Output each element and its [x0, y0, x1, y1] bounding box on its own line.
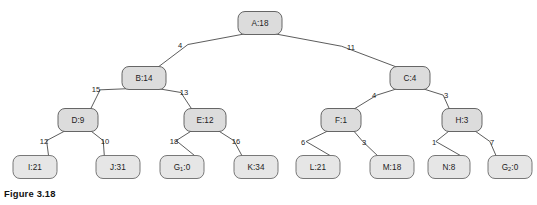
node-label: L:21	[310, 163, 327, 172]
tree-node-D[interactable]: D:9	[58, 109, 98, 132]
edge-weight-label: 3	[362, 138, 366, 147]
tree-node-K[interactable]: K:34	[234, 156, 278, 179]
tree-node-C[interactable]: C:4	[390, 67, 430, 90]
edge-weight-label: 6	[301, 138, 305, 147]
edge-weight-label: 12	[40, 137, 48, 146]
edge-weight-label: 4	[178, 41, 182, 50]
tree-node-E[interactable]: E:12	[184, 109, 226, 132]
tree-node-J[interactable]: J:31	[96, 156, 140, 179]
tree-node-I[interactable]: I:21	[13, 156, 57, 179]
game-tree-diagram: A:18B:14C:4D:9E:12F:1H:3I:21J:31G1:0K:34…	[0, 0, 537, 205]
edge-weight-label: 11	[347, 43, 355, 52]
node-label: C:4	[403, 74, 416, 83]
edge-weight-label: 16	[232, 137, 240, 146]
edge-weight-label: 3	[444, 91, 448, 100]
figure-container: A:18B:14C:4D:9E:12F:1H:3I:21J:31G1:0K:34…	[0, 0, 537, 205]
tree-edge	[176, 131, 195, 157]
node-label: I:21	[28, 163, 42, 172]
edge-weight-label: 15	[92, 85, 100, 94]
tree-edge	[274, 34, 398, 68]
edge-weight-label: 7	[490, 138, 494, 147]
edge-weight-label: 18	[170, 137, 178, 146]
node-label: K:34	[247, 163, 265, 172]
node-label: B:14	[135, 74, 153, 83]
tree-edge	[306, 131, 332, 157]
node-label: J:31	[110, 163, 126, 172]
tree-node-N[interactable]: N:8	[428, 156, 470, 179]
nodes-layer: A:18B:14C:4D:9E:12F:1H:3I:21J:31G1:0K:34…	[13, 12, 532, 179]
tree-edge	[47, 131, 66, 157]
edge-labels-layer: 411151343121018166317	[40, 41, 494, 147]
tree-node-M[interactable]: M:18	[370, 156, 414, 179]
edge-weight-label: 4	[372, 91, 376, 100]
tree-node-G1[interactable]: G1:0	[160, 156, 204, 179]
tree-node-F[interactable]: F:1	[321, 109, 361, 132]
edge-weight-label: 10	[101, 137, 109, 146]
edge-weight-label: 13	[180, 88, 188, 97]
node-label: A:18	[251, 19, 269, 28]
tree-node-H[interactable]: H:3	[442, 109, 482, 132]
node-label: F:1	[335, 116, 347, 125]
edge-weight-label: 1	[432, 138, 436, 147]
tree-edge	[158, 34, 247, 68]
node-label: N:8	[442, 163, 455, 172]
node-label: M:18	[383, 163, 402, 172]
node-label: E:12	[196, 116, 214, 125]
figure-caption: Figure 3.18	[4, 188, 56, 199]
node-label: H:3	[455, 116, 468, 125]
tree-edge	[436, 131, 462, 157]
edges-layer	[47, 34, 497, 157]
tree-node-B[interactable]: B:14	[122, 67, 166, 90]
tree-node-G2[interactable]: G2:0	[488, 156, 532, 179]
tree-node-A[interactable]: A:18	[238, 12, 282, 35]
node-label: D:9	[71, 116, 84, 125]
tree-node-L[interactable]: L:21	[296, 156, 340, 179]
